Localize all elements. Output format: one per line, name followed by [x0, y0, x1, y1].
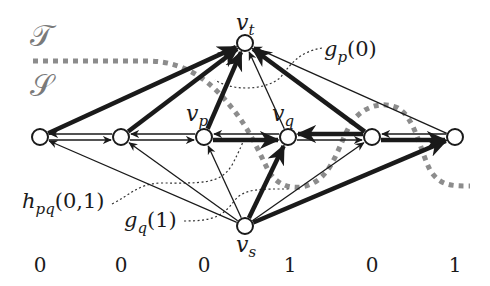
region-label-s: 𝒮 — [30, 68, 56, 103]
node-value: 0 — [198, 253, 211, 277]
graph-node-n1 — [32, 129, 48, 145]
sink-label: vt — [236, 10, 255, 39]
region-label-t: 𝒯 — [30, 18, 57, 53]
graph-node-vq — [280, 129, 296, 145]
graph-node-vp — [196, 129, 212, 145]
source-label: vs — [236, 232, 256, 261]
edge-layer — [48, 47, 447, 222]
node-value: 0 — [34, 253, 47, 277]
node-value: 0 — [115, 253, 128, 277]
annotation-gq1: gq(1) — [124, 208, 177, 237]
node-value: 1 — [449, 253, 462, 277]
node-label-vq: vq — [272, 101, 294, 130]
annotation-hpq01: hpq(0,1) — [22, 189, 105, 218]
graph-cut-diagram: 𝒯 𝒮 vt vs vp vq gp(0) hpq(0,1) gq(1) 0 0… — [0, 0, 490, 286]
node-value: 0 — [366, 253, 379, 277]
graph-node-n6 — [447, 129, 463, 145]
edge-from-source — [129, 143, 238, 221]
graph-node-n5 — [364, 129, 380, 145]
edge-to-sink — [253, 49, 365, 132]
graph-node-n2 — [113, 129, 129, 145]
edge-to-sink — [208, 52, 241, 129]
cut-boundary — [33, 61, 470, 187]
annotation-gp0: gp(0) — [324, 37, 377, 66]
node-value: 1 — [284, 253, 297, 277]
leader-hpq01 — [112, 138, 244, 204]
node-label-vp: vp — [186, 101, 208, 130]
